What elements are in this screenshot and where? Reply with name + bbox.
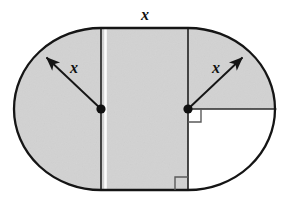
- stadium-diagram-svg: x x x: [0, 0, 288, 198]
- left-semicircle-region: [14, 28, 101, 190]
- right-radius-label: x: [211, 59, 220, 76]
- top-length-label: x: [140, 6, 149, 23]
- right-center-dot: [183, 104, 192, 113]
- middle-rectangle-region: [101, 28, 188, 190]
- left-center-dot: [96, 104, 105, 113]
- left-radius-label: x: [69, 59, 78, 76]
- geometry-figure: x x x: [0, 0, 288, 198]
